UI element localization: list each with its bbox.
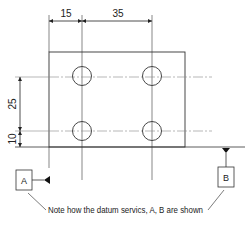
datum-b: B — [218, 148, 234, 187]
note-text: Note how the datum servics, A, B are sho… — [48, 205, 203, 215]
part-outline — [49, 52, 185, 147]
datum-a-label: A — [21, 176, 27, 186]
horizontal-centerlines — [15, 77, 212, 131]
extension-lines — [49, 15, 152, 180]
dimension-10: 10 — [7, 133, 18, 145]
datum-a-triangle — [44, 176, 50, 184]
holes — [73, 67, 162, 141]
dimension-35: 35 — [112, 8, 124, 19]
datum-a: A — [16, 170, 50, 190]
dimension-15: 15 — [60, 8, 72, 19]
datum-b-triangle — [222, 148, 230, 153]
datum-b-label: B — [223, 173, 229, 183]
engineering-drawing: 15 35 25 10 A B — [0, 0, 250, 228]
dimension-25: 25 — [7, 98, 18, 110]
